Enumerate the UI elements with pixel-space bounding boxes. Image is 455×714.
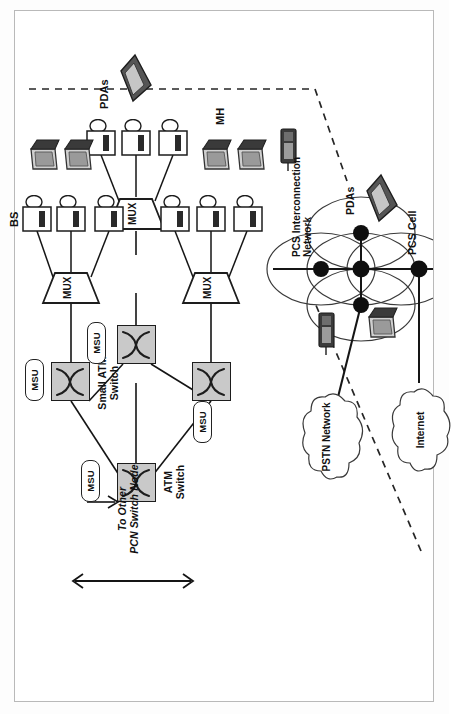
cloud-icon <box>297 389 371 485</box>
pcs-cell-label: PCS Cell <box>407 210 419 255</box>
internet-cloud: Internet <box>387 383 455 477</box>
pcs-interconnection-label: PCS Interconnection Network <box>291 157 313 257</box>
pcs-access-network <box>15 11 433 701</box>
mobile-phone-icon <box>315 309 339 357</box>
pda-icon <box>365 173 401 225</box>
pstn-cloud: PSTN Network <box>297 389 371 485</box>
internet-label: Internet <box>415 383 426 477</box>
diagram-canvas: MSU ATM Switch MSU Small ATM Switch <box>15 11 433 701</box>
mobile-phone[interactable] <box>315 309 343 357</box>
pdas-label-access: PDAs <box>345 187 357 215</box>
laptop-icon <box>367 303 399 339</box>
pda-device-access[interactable] <box>365 173 405 225</box>
laptop-access[interactable] <box>367 303 403 339</box>
figure-frame: MSU ATM Switch MSU Small ATM Switch <box>14 10 434 702</box>
pstn-label: PSTN Network <box>321 389 332 485</box>
